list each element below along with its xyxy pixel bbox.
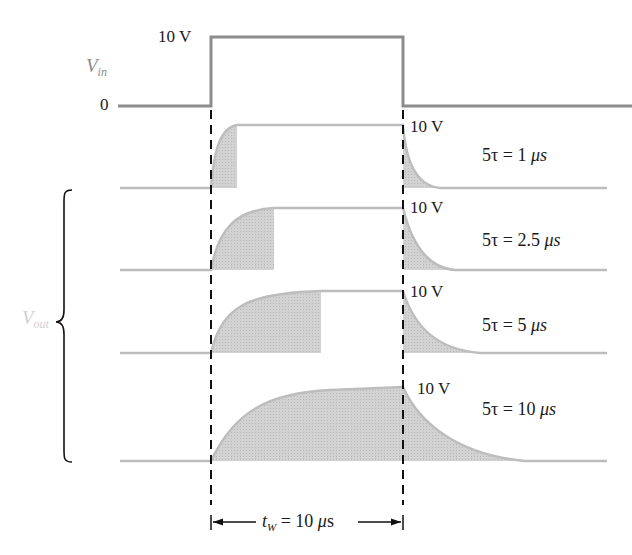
tau-unit: μs xyxy=(526,315,547,335)
vin-label-main: V xyxy=(86,55,98,76)
pulse-width-label: tW = 10 μs xyxy=(262,512,334,530)
tau-unit: μs xyxy=(540,230,561,250)
tw-s: s xyxy=(327,511,334,531)
row2-tau-label: 5τ = 2.5 μs xyxy=(482,231,560,249)
charge-fill-3 xyxy=(211,291,321,353)
row3-level-label: 10 V xyxy=(410,283,443,300)
tau-value: 2.5 xyxy=(517,230,540,250)
tw-rest: = 10 xyxy=(276,511,318,531)
row1-level-label: 10 V xyxy=(410,118,443,135)
arrow-left-icon xyxy=(213,519,223,526)
waveform-diagram xyxy=(0,0,632,555)
tw-mu: μ xyxy=(318,511,327,531)
vout-brace xyxy=(56,190,72,462)
input-pulse-waveform xyxy=(118,37,632,106)
vin-label: Vin xyxy=(86,56,107,75)
charge-discharge-fill-4 xyxy=(211,387,525,461)
arrow-right-icon xyxy=(391,519,401,526)
row4-level-label: 10 V xyxy=(417,380,450,397)
row4-tau-label: 5τ = 10 μs xyxy=(482,400,556,418)
row3-tau-label: 5τ = 5 μs xyxy=(482,316,547,334)
vout-label: Vout xyxy=(22,308,49,327)
tau-prefix: 5τ = xyxy=(482,315,517,335)
input-zero-label: 0 xyxy=(100,96,109,113)
tau-prefix: 5τ = xyxy=(482,399,517,419)
tau-unit: μs xyxy=(526,145,547,165)
tau-prefix: 5τ = xyxy=(482,230,517,250)
tau-unit: μs xyxy=(535,399,556,419)
vout-label-main: V xyxy=(22,307,34,328)
input-high-label: 10 V xyxy=(158,28,191,45)
vin-label-sub: in xyxy=(98,65,107,79)
tw-sub: W xyxy=(267,521,276,533)
tau-value: 10 xyxy=(517,399,535,419)
vout-label-sub: out xyxy=(34,317,49,331)
row1-tau-label: 5τ = 1 μs xyxy=(482,146,547,164)
tau-prefix: 5τ = xyxy=(482,145,517,165)
row2-level-label: 10 V xyxy=(410,199,443,216)
